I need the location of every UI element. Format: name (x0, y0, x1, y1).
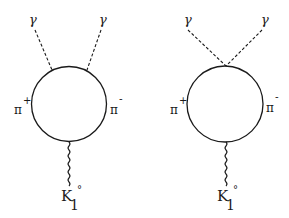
photon-label-right-2: γ (261, 13, 269, 26)
pion-minus-label-right: π (266, 102, 274, 114)
kaon-subscript-left: 1 (70, 198, 79, 212)
photon-line-left-2 (87, 30, 101, 70)
photon-line-left-1 (35, 30, 52, 70)
pion-plus-label-left: π (14, 104, 22, 116)
pion-minus-charge-right: - (275, 92, 279, 102)
pion-loop-left (32, 67, 107, 142)
kaon-wavy-line-right (225, 142, 227, 186)
pion-minus-label-left: π (110, 104, 118, 116)
pion-plus-label-right: π (170, 104, 178, 116)
pion-plus-charge-right: + (179, 96, 187, 106)
kaon-superscript-left: ° (77, 185, 82, 195)
kaon-subscript-right: 1 (226, 198, 235, 212)
photon-label-left-1: γ (29, 13, 37, 26)
diagram-left (32, 30, 107, 186)
diagram-right (187, 30, 263, 186)
photon-label-right-1: γ (184, 13, 192, 26)
photon-label-left-2: γ (99, 13, 107, 26)
feynman-diagrams (0, 0, 289, 218)
kaon-wavy-line-left (68, 142, 70, 186)
pion-minus-charge-left: - (119, 94, 123, 104)
pion-plus-charge-left: + (23, 96, 31, 106)
photon-line-right-1 (188, 30, 226, 66)
pion-loop-right (187, 66, 263, 142)
photon-line-right-2 (226, 30, 262, 66)
kaon-superscript-right: ° (233, 185, 238, 195)
